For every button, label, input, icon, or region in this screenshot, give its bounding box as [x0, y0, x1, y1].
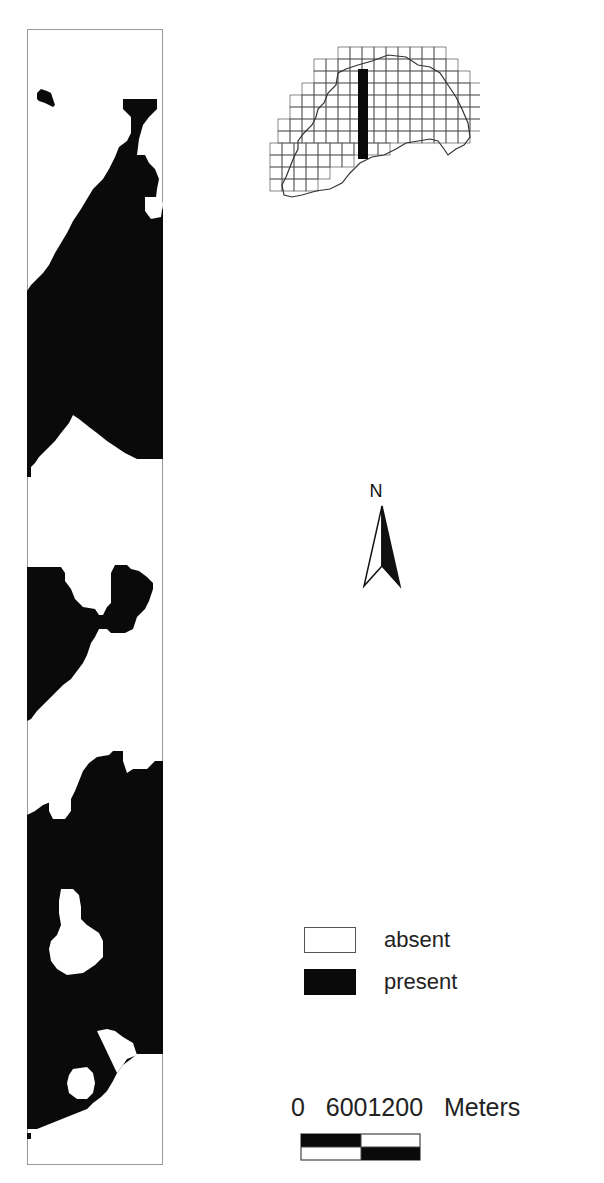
legend-swatch-absent	[304, 927, 356, 953]
legend-swatch-present	[304, 969, 356, 995]
north-arrow: N	[358, 482, 408, 592]
presence-map-strip	[27, 29, 163, 1165]
legend-label-present: present	[384, 969, 457, 995]
north-label: N	[358, 482, 394, 500]
study-transect-highlight	[358, 69, 368, 159]
grid-cells	[270, 47, 480, 191]
legend-label-absent: absent	[384, 927, 450, 953]
watershed-boundary	[282, 55, 470, 197]
scale-bar	[300, 1133, 421, 1161]
absent-patch	[49, 793, 71, 819]
legend-item-absent: absent	[304, 927, 450, 953]
locator-inset-map	[268, 45, 480, 207]
absent-patch	[67, 1067, 95, 1099]
north-arrow-icon	[360, 502, 406, 590]
legend-item-present: present	[304, 969, 457, 995]
scale-bar-labels: 0 6001200 Meters	[291, 1093, 520, 1122]
present-patch	[27, 1133, 31, 1139]
